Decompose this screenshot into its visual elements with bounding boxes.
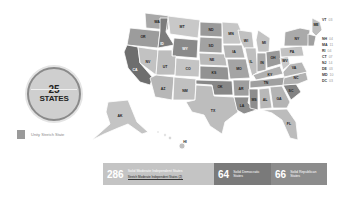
svg-text:KS: KS [212, 71, 218, 75]
stat-caption: Stretch Moderate Independent States (2) [128, 175, 183, 180]
stat-number: 286 [107, 169, 124, 180]
svg-text:MT: MT [179, 25, 185, 29]
svg-text:WA: WA [154, 20, 160, 24]
svg-text:IN: IN [260, 61, 264, 65]
stat-moderate-independent: 286 Solid Moderate Independent States St… [103, 163, 214, 185]
legend-swatch [17, 130, 25, 139]
svg-text:MS: MS [251, 98, 257, 102]
stat-number: 64 [218, 169, 229, 180]
svg-text:TN: TN [264, 81, 269, 85]
svg-text:NE: NE [210, 58, 216, 62]
label-md: MD10 [322, 73, 333, 77]
svg-text:GA: GA [276, 97, 282, 101]
svg-text:AR: AR [238, 87, 244, 91]
label-de: DE03 [322, 67, 333, 71]
stat-label: Solid Democratic States [233, 170, 267, 178]
label-ri: RI04 [322, 49, 331, 53]
stats-bar: 286 Solid Moderate Independent States St… [103, 163, 327, 185]
stat-label: Solid Moderate Independent States [128, 169, 183, 173]
svg-text:OK: OK [217, 85, 223, 89]
svg-text:WI: WI [244, 39, 248, 43]
state-FL[interactable] [262, 109, 298, 140]
state-ME[interactable] [312, 18, 322, 36]
svg-text:OH: OH [270, 56, 276, 60]
label-vt: VT03 [322, 18, 332, 22]
state-NE-small[interactable] [308, 34, 316, 46]
svg-text:CO: CO [185, 67, 191, 71]
circle-divider [31, 89, 77, 90]
svg-text:MO: MO [236, 67, 242, 71]
label-nh: NH04 [322, 37, 333, 41]
label-dc: DC03 [322, 79, 333, 83]
legend-label: Unity Stretch State [31, 132, 64, 137]
svg-text:ND: ND [208, 28, 214, 32]
label-ma: MA11 [322, 43, 333, 47]
stat-number: 66 [275, 169, 286, 180]
state-HI[interactable] [157, 131, 185, 149]
svg-text:LA: LA [240, 104, 245, 108]
legend: Unity Stretch State [17, 130, 64, 139]
stat-label: Solid Republican States [290, 170, 323, 178]
svg-text:IA: IA [232, 50, 236, 54]
svg-text:ID: ID [160, 42, 164, 46]
svg-text:MI: MI [262, 41, 266, 45]
label-nj: NJ14 [322, 61, 332, 65]
svg-text:NV: NV [146, 60, 152, 64]
stat-democratic: 64 Solid Democratic States [214, 163, 271, 185]
svg-text:AK: AK [117, 114, 123, 118]
states-label: STATES [39, 94, 68, 103]
label-ct: CT07 [322, 55, 333, 59]
summary-circle: 25 STATES [27, 67, 81, 121]
svg-text:WY: WY [182, 47, 188, 51]
state-AK[interactable] [92, 100, 148, 140]
svg-text:SD: SD [209, 44, 214, 48]
stat-republican: 66 Solid Republican States [271, 163, 327, 185]
svg-text:ME: ME [313, 23, 319, 27]
svg-text:TX: TX [211, 109, 216, 113]
svg-text:NY: NY [295, 37, 301, 41]
svg-text:PA: PA [290, 50, 295, 54]
svg-text:NC: NC [293, 76, 299, 80]
svg-text:OR: OR [140, 35, 146, 39]
svg-text:KY: KY [268, 73, 274, 77]
svg-text:VA: VA [292, 66, 297, 70]
svg-text:NM: NM [182, 89, 188, 93]
svg-text:MN: MN [228, 32, 234, 36]
svg-text:CA: CA [132, 68, 138, 72]
svg-text:HI: HI [183, 140, 187, 144]
svg-text:WV: WV [282, 59, 288, 63]
svg-text:SC: SC [289, 89, 294, 93]
